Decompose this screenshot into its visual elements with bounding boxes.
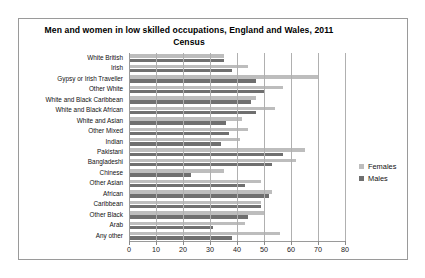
gridline-80 <box>345 53 346 241</box>
y-axis-label-15: Other Black <box>90 212 123 218</box>
y-axis-label-12: Other Asian <box>90 180 123 186</box>
legend-swatch-females-icon <box>359 164 364 169</box>
legend-swatch-males-icon <box>359 176 364 181</box>
legend-item-females: Females <box>359 162 421 171</box>
bar-males-12 <box>129 184 245 187</box>
bar-males-3 <box>129 90 264 93</box>
bar-males-7 <box>129 132 229 135</box>
legend-label-females: Females <box>368 162 396 171</box>
bar-females-8 <box>129 138 240 141</box>
bar-females-16 <box>129 222 245 225</box>
gridline-10 <box>156 53 157 241</box>
y-axis-label-6: White and Asian <box>77 118 123 124</box>
x-axis-tick-labels: 01020304050607080 <box>129 245 345 259</box>
y-axis-label-13: African <box>103 191 123 197</box>
bar-males-6 <box>129 121 226 124</box>
x-tick-label-40: 40 <box>233 245 241 254</box>
x-tick-label-0: 0 <box>127 245 131 254</box>
bar-males-1 <box>129 69 232 72</box>
chart-title-line1: Men and women in low skilled occupations… <box>45 25 334 35</box>
y-axis-label-16: Arab <box>110 222 124 228</box>
bar-males-14 <box>129 205 261 208</box>
y-axis-label-4: White and Black Caribbean <box>46 97 123 103</box>
bar-females-17 <box>129 232 280 235</box>
y-axis-label-14: Caribbean <box>94 201 124 207</box>
bar-males-11 <box>129 173 191 176</box>
y-axis-label-17: Any other <box>96 233 123 239</box>
legend-item-males: Males <box>359 174 421 183</box>
chart-legend: Females Males <box>359 162 421 186</box>
bar-females-14 <box>129 201 261 204</box>
gridline-70 <box>318 53 319 241</box>
bar-females-12 <box>129 180 261 183</box>
y-axis-label-11: Chinese <box>100 170 123 176</box>
bar-males-15 <box>129 215 248 218</box>
bar-males-10 <box>129 163 272 166</box>
y-axis-label-8: Indian <box>106 139 123 145</box>
legend-label-males: Males <box>368 174 388 183</box>
y-axis-label-5: White and Black African <box>56 107 124 113</box>
x-tick-label-20: 20 <box>179 245 187 254</box>
bar-females-13 <box>129 190 272 193</box>
y-axis-label-9: Pakistani <box>97 149 123 155</box>
x-tick-label-70: 70 <box>314 245 322 254</box>
bar-males-13 <box>129 194 269 197</box>
bar-females-3 <box>129 86 283 89</box>
y-axis-label-10: Bangladeshi <box>88 159 123 165</box>
gridline-50 <box>264 53 265 241</box>
x-tick-label-60: 60 <box>287 245 295 254</box>
bar-males-9 <box>129 153 283 156</box>
y-axis-label-2: Gypsy or Irish Traveller <box>57 76 123 82</box>
bar-females-15 <box>129 211 264 214</box>
gridline-0 <box>129 53 130 241</box>
y-axis-label-0: White British <box>87 55 123 61</box>
bar-females-7 <box>129 128 248 131</box>
bar-males-8 <box>129 142 221 145</box>
gridline-30 <box>210 53 211 241</box>
y-axis-label-1: Irish <box>111 65 123 71</box>
chart-title: Men and women in low skilled occupations… <box>29 24 349 48</box>
bar-females-6 <box>129 117 242 120</box>
x-tick-label-30: 30 <box>206 245 214 254</box>
gridline-40 <box>237 53 238 241</box>
y-axis-category-labels: White BritishIrishGypsy or Irish Travell… <box>19 53 127 241</box>
y-axis-label-7: Other Mixed <box>88 128 123 134</box>
bar-males-16 <box>129 226 213 229</box>
x-tick-label-10: 10 <box>152 245 160 254</box>
gridline-20 <box>183 53 184 241</box>
bar-females-1 <box>129 65 248 68</box>
x-tick-label-80: 80 <box>341 245 349 254</box>
y-axis-label-3: Other White <box>89 86 123 92</box>
chart-title-line2: Census <box>173 37 205 47</box>
gridline-60 <box>291 53 292 241</box>
bar-males-4 <box>129 100 251 103</box>
chart-frame: Men and women in low skilled occupations… <box>18 18 408 260</box>
bar-males-17 <box>129 236 232 239</box>
plot-area <box>129 53 345 241</box>
x-tick-label-50: 50 <box>260 245 268 254</box>
bar-females-10 <box>129 159 296 162</box>
bar-females-2 <box>129 75 318 78</box>
bar-females-5 <box>129 107 275 110</box>
